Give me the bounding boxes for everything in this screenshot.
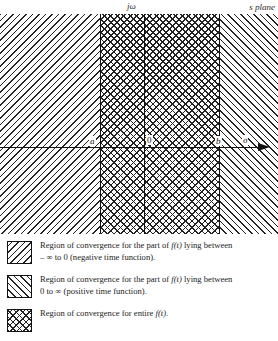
- imaginary-axis-line: [144, 14, 145, 234]
- legend-item-negative-time: Region of convergence for the part of f(…: [0, 240, 278, 272]
- region-positive-time-right: [219, 14, 278, 234]
- boundary-line-b: [219, 14, 220, 234]
- legend-line1-prefix: Region of convergence for entire: [40, 308, 156, 318]
- real-axis-label: σ: [242, 135, 248, 145]
- legend-text-negative-time: Region of convergence for the part of f(…: [40, 240, 276, 263]
- legend-line1-prefix: Region of convergence for the part of: [40, 240, 171, 250]
- abscissa-label-a: a: [89, 136, 96, 146]
- s-plane-diagram: a 0 b σ: [0, 14, 278, 234]
- abscissa-label-b: b: [215, 136, 222, 146]
- legend-line2: – ∞ to 0 (negative time function).: [40, 252, 155, 262]
- real-axis-line: [0, 147, 262, 148]
- legend-line1-function: f(t): [171, 274, 182, 284]
- legend-line1-function: f(t): [156, 308, 167, 318]
- plot-top-label-strip: jω s plane: [0, 0, 278, 15]
- region-negative-time-left: [0, 14, 100, 234]
- legend-line1-suffix: lying between: [182, 240, 233, 250]
- legend-swatch-cross-hatch: [7, 309, 32, 332]
- legend: Region of convergence for the part of f(…: [0, 238, 278, 341]
- imaginary-axis-label: jω: [127, 0, 136, 12]
- legend-text-positive-time: Region of convergence for the part of f(…: [40, 274, 276, 297]
- legend-line1-function: f(t): [171, 240, 182, 250]
- legend-line1-prefix: Region of convergence for the part of: [40, 274, 171, 284]
- real-axis-arrow-icon: [258, 143, 270, 151]
- legend-text-entire-function: Region of convergence for entire f(t).: [40, 308, 276, 320]
- boundary-line-a: [100, 14, 101, 234]
- legend-item-positive-time: Region of convergence for the part of f(…: [0, 274, 278, 306]
- legend-line1-suffix: .: [166, 308, 168, 318]
- origin-label: 0: [146, 135, 153, 145]
- region-entire-f-strip: [100, 14, 219, 234]
- legend-line2: 0 to ∞ (positive time function).: [40, 286, 147, 296]
- legend-item-entire-function: Region of convergence for entire f(t).: [0, 308, 278, 340]
- legend-swatch-backslash-hatch: [7, 241, 32, 264]
- s-plane-label: s plane: [249, 1, 275, 13]
- legend-line1-suffix: lying between: [182, 274, 233, 284]
- legend-swatch-forward-slash-hatch: [7, 275, 32, 298]
